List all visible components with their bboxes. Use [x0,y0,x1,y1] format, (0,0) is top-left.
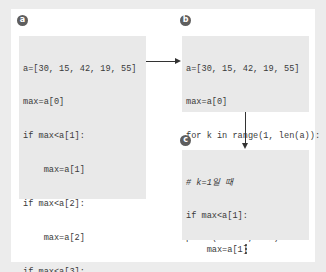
label-badge-a: a [17,15,28,26]
label-badge-c: c [180,135,191,146]
code-line: if max<a[3]: [23,267,142,272]
code-comment: # k=1일 때 [186,178,305,189]
code-line: a=[30, 15, 42, 19, 55] [186,64,305,75]
code-block-a: a=[30, 15, 42, 19, 55] max=a[0] if max<a… [19,36,146,199]
code-line: max=a[2] [23,233,142,244]
code-line: a=[30, 15, 42, 19, 55] [23,64,142,75]
arrow-a-to-b [146,61,176,62]
arrow-down-icon [242,143,248,149]
code-line: max=a[1] [23,165,142,176]
continuation-ellipsis-icon [243,244,249,256]
label-badge-b: b [180,15,191,26]
code-line: if max<a[2]: [23,199,142,210]
arrow-b-to-c [245,112,246,144]
code-line: if max<a[1]: [186,211,305,222]
code-line: max=a[0] [23,97,142,108]
code-block-b: a=[30, 15, 42, 19, 55] max=a[0] for k in… [182,36,309,112]
code-line: max=a[0] [186,97,305,108]
code-block-c: # k=1일 때 if max<a[1]: max=a[1] # k=2일 때 … [182,150,309,240]
code-line: if max<a[1]: [23,131,142,142]
arrow-right-icon [175,58,181,64]
